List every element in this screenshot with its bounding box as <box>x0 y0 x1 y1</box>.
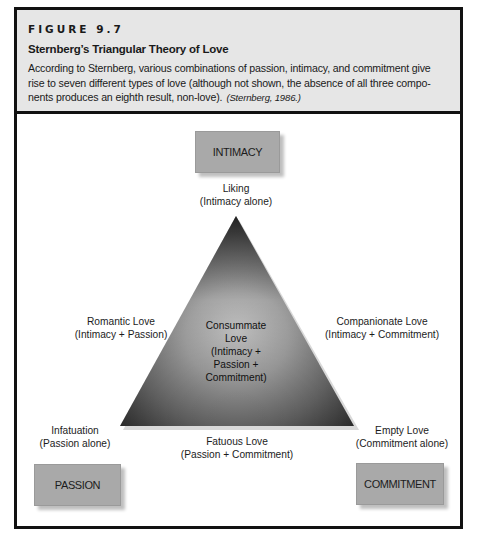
consummate-line: Passion + <box>196 358 276 371</box>
love-triangle-diagram: INTIMACY PASSION COMMITMENT Liking (Inti… <box>17 114 460 526</box>
consummate-line: Love <box>196 332 276 345</box>
empty-love-label: Empty Love (Commitment alone) <box>347 424 457 450</box>
commitment-label: COMMITMENT <box>364 478 436 490</box>
caption-line: nents produces an eighth result, non-lov… <box>28 90 453 106</box>
fatuous-love-label: Fatuous Love (Passion + Commitment) <box>172 435 302 461</box>
figure-number: FIGURE 9.7 <box>28 23 124 35</box>
figure-title: Sternberg’s Triangular Theory of Love <box>28 43 229 55</box>
figure-header: FIGURE 9.7 Sternberg’s Triangular Theory… <box>17 10 460 114</box>
caption-line: rise to seven different types of love (a… <box>28 76 453 91</box>
romantic-love-detail: (Intimacy + Passion) <box>61 328 181 341</box>
romantic-love-name: Romantic Love <box>61 315 181 328</box>
companionate-love-name: Companionate Love <box>317 315 447 328</box>
consummate-line: Commitment) <box>196 371 276 384</box>
consummate-line: (Intimacy + <box>196 345 276 358</box>
consummate-line: Consummate <box>196 319 276 332</box>
intimacy-box: INTIMACY <box>195 131 280 173</box>
companionate-love-detail: (Intimacy + Commitment) <box>317 328 447 341</box>
liking-detail: (Intimacy alone) <box>186 195 286 208</box>
infatuation-name: Infatuation <box>25 424 125 437</box>
infatuation-detail: (Passion alone) <box>25 437 125 450</box>
caption-line: According to Sternberg, various combinat… <box>28 61 453 76</box>
figure-panel: FIGURE 9.7 Sternberg’s Triangular Theory… <box>14 7 463 529</box>
romantic-love-label: Romantic Love (Intimacy + Passion) <box>61 315 181 341</box>
liking-label: Liking (Intimacy alone) <box>186 182 286 208</box>
consummate-love-label: Consummate Love (Intimacy + Passion + Co… <box>196 319 276 384</box>
caption-citation: (Sternberg, 1986.) <box>226 92 300 103</box>
intimacy-label: INTIMACY <box>213 146 262 158</box>
empty-love-name: Empty Love <box>347 424 457 437</box>
commitment-box: COMMITMENT <box>356 463 444 505</box>
fatuous-love-name: Fatuous Love <box>172 435 302 448</box>
passion-box: PASSION <box>34 464 121 506</box>
infatuation-label: Infatuation (Passion alone) <box>25 424 125 450</box>
empty-love-detail: (Commitment alone) <box>347 437 457 450</box>
companionate-love-label: Companionate Love (Intimacy + Commitment… <box>317 315 447 341</box>
passion-label: PASSION <box>55 479 100 491</box>
figure-caption: According to Sternberg, various combinat… <box>28 61 453 106</box>
liking-name: Liking <box>186 182 286 195</box>
caption-line-text: nents produces an eighth result, non-lov… <box>28 91 222 103</box>
fatuous-love-detail: (Passion + Commitment) <box>172 448 302 461</box>
